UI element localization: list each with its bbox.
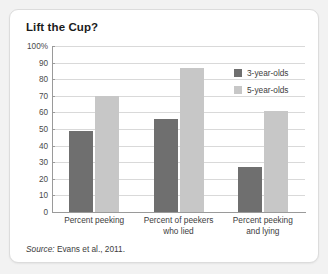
y-tick-mark-60 [52, 112, 55, 113]
y-tick-label-30: 30 [39, 158, 48, 167]
y-tick-mark-30 [52, 162, 55, 163]
bar-5-year-olds-3 [264, 111, 288, 212]
category-label-2: Percent of peekerswho lied [136, 215, 220, 237]
category-label-line: and lying [221, 226, 305, 237]
chart-title: Lift the Cup? [26, 21, 98, 33]
y-tick-label-70: 70 [39, 91, 48, 100]
y-tick-label-80: 80 [39, 75, 48, 84]
category-label-line: Percent peeking [221, 215, 305, 226]
y-tick-label-0: 0 [43, 208, 48, 217]
bar-5-year-olds-2 [180, 68, 204, 212]
gridline-90 [52, 63, 305, 64]
source-label: Source: [26, 244, 55, 254]
legend-swatch-icon [234, 69, 242, 77]
category-label-line: Percent of peekers [136, 215, 220, 226]
legend-swatch-icon [234, 86, 242, 94]
bar-3-year-olds-3 [238, 167, 262, 212]
y-tick-mark-10 [52, 195, 55, 196]
y-tick-mark-70 [52, 96, 55, 97]
y-tick-mark-100 [52, 46, 55, 47]
y-tick-mark-40 [52, 146, 55, 147]
y-tick-mark-0 [52, 212, 55, 213]
y-tick-label-50: 50 [39, 125, 48, 134]
gridline-100 [52, 46, 305, 47]
y-tick-mark-90 [52, 63, 55, 64]
legend-label: 5-year-olds [247, 85, 289, 95]
legend-item-5-year-olds[interactable]: 5-year-olds [234, 83, 289, 96]
chart-card: Lift the Cup? 0102030405060708090100% Pe… [9, 9, 319, 263]
source-note: Source: Evans et al., 2011. [26, 244, 125, 254]
legend-item-3-year-olds[interactable]: 3-year-olds [234, 66, 289, 79]
category-label-line: who lied [136, 226, 220, 237]
y-tick-label-10: 10 [39, 191, 48, 200]
chart-legend: 3-year-olds5-year-olds [234, 66, 289, 100]
bar-5-year-olds-1 [95, 96, 119, 212]
y-tick-mark-50 [52, 129, 55, 130]
category-label-3: Percent peekingand lying [221, 215, 305, 237]
legend-label: 3-year-olds [247, 68, 289, 78]
x-axis-line [52, 212, 306, 213]
bar-3-year-olds-2 [154, 119, 178, 212]
y-axis-tick-labels: 0102030405060708090100% [10, 46, 48, 212]
screenshot-root: Lift the Cup? 0102030405060708090100% Pe… [0, 0, 328, 274]
y-tick-label-100: 100% [27, 42, 48, 51]
y-tick-label-40: 40 [39, 141, 48, 150]
category-label-line: Percent peeking [52, 215, 136, 226]
y-tick-label-90: 90 [39, 58, 48, 67]
y-tick-label-20: 20 [39, 174, 48, 183]
source-citation: Evans et al., 2011. [57, 244, 125, 254]
y-tick-mark-80 [52, 79, 55, 80]
bar-3-year-olds-1 [69, 131, 93, 212]
category-label-1: Percent peeking [52, 215, 136, 226]
y-tick-mark-20 [52, 179, 55, 180]
y-tick-label-60: 60 [39, 108, 48, 117]
